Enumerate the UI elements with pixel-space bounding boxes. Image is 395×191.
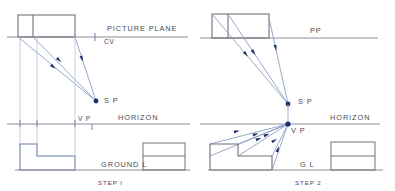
sp-label: S P: [298, 97, 313, 106]
step-caption-2: STEP 2: [295, 179, 322, 186]
ground-line-label: G L: [300, 160, 315, 169]
ray-arrow-icon: [273, 45, 277, 52]
perspective-construction-diagram: PICTURE PLANE CV S P V P HORIZON GROUND …: [0, 0, 395, 191]
visual-ray: [269, 18, 288, 104]
step-caption-1: STEP I: [98, 179, 123, 186]
picture-plane-label: PP: [310, 26, 322, 35]
vanishing-ray: [272, 124, 288, 170]
plan-box-step2: [212, 14, 269, 38]
ray-arrow-icon: [79, 56, 84, 63]
vanishing-ray: [238, 124, 288, 144]
picture-plane-label: PICTURE PLANE: [107, 24, 177, 33]
ray-arrow-icon: [271, 137, 278, 143]
plan-box-step1: [18, 15, 75, 37]
horizon-label: HORIZON: [330, 113, 370, 122]
visual-ray: [228, 14, 288, 104]
ray-arrow-icon: [56, 57, 62, 64]
ground-line-label: GROUND L: [101, 160, 147, 169]
cv-label: CV: [104, 38, 115, 45]
ray-arrow-icon: [234, 129, 241, 134]
ray-arrow-icon: [50, 64, 57, 70]
panel-step-2: PP S P HORIZON V P G L STEP 2: [200, 14, 383, 186]
horizon-label: HORIZON: [118, 113, 158, 122]
station-point-marker: [94, 99, 99, 104]
visual-ray: [18, 37, 96, 101]
visual-ray: [33, 37, 96, 101]
vanishing-point-marker: [285, 121, 290, 126]
vp-label: V P: [78, 115, 91, 122]
panel-step-1: PICTURE PLANE CV S P V P HORIZON GROUND …: [7, 15, 190, 186]
elevation-shape-step2: [210, 144, 272, 170]
sp-label: S P: [104, 96, 119, 105]
visual-ray: [212, 14, 288, 104]
vanishing-ray: [210, 124, 288, 144]
visual-ray: [75, 37, 96, 101]
elevation-shape-step1: [20, 144, 75, 170]
diagram-canvas: PICTURE PLANE CV S P V P HORIZON GROUND …: [0, 0, 395, 191]
vp-label: V P: [291, 126, 306, 135]
